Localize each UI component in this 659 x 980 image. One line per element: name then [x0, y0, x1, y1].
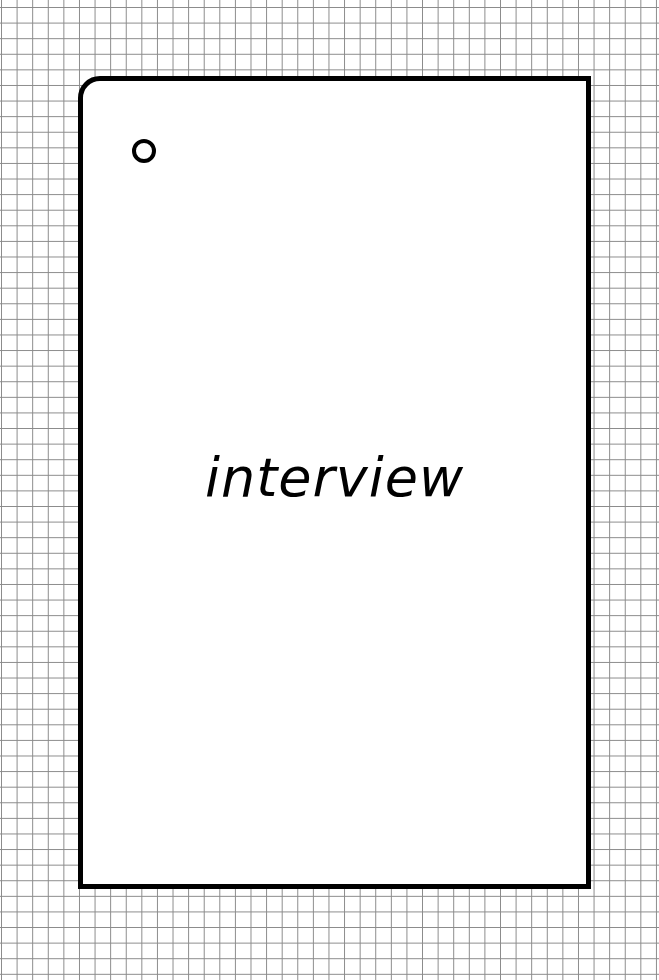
card-label: interview: [0, 446, 659, 509]
circle-icon: [132, 139, 156, 163]
